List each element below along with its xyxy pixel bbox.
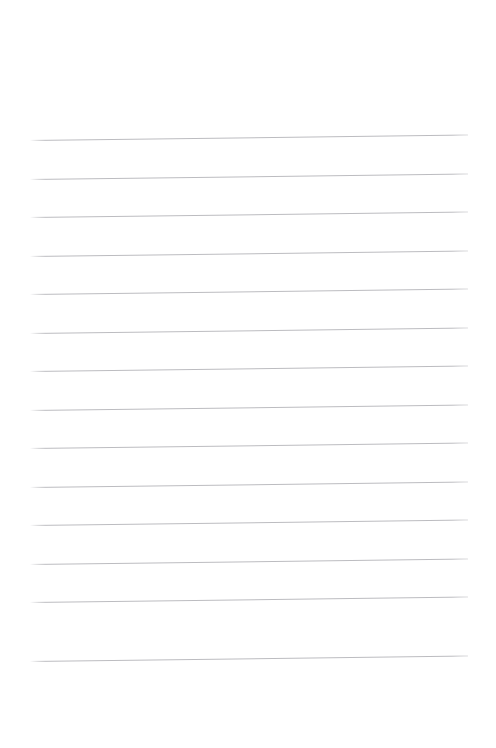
rule-line-13 [30,597,468,603]
rule-line-14 [30,655,468,661]
rule-line-2 [30,173,468,179]
ruled-lines-group [0,0,496,748]
rule-line-12 [30,558,468,564]
rule-line-5 [30,289,468,295]
rule-line-11 [30,520,468,526]
rule-line-9 [30,443,468,449]
rule-line-4 [30,250,468,256]
lined-paper-page [0,0,496,748]
rule-line-7 [30,366,468,372]
rule-line-8 [30,404,468,410]
rule-line-6 [30,327,468,333]
rule-line-3 [30,212,468,218]
rule-line-10 [30,481,468,487]
rule-line-1 [30,135,468,141]
